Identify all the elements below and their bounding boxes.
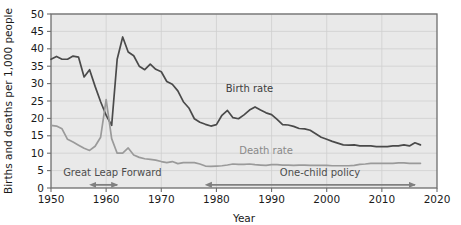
y-tick-label: 10	[31, 147, 44, 159]
y-tick-label: 15	[31, 129, 44, 141]
annotation-label-great-leap-forward: Great Leap Forward	[63, 167, 161, 178]
annotation-label-one-child-policy: One-child policy	[280, 167, 360, 178]
x-tick-label: 1980	[203, 193, 230, 205]
y-tick-label: 0	[37, 182, 44, 194]
x-tick-label: 1960	[93, 193, 120, 205]
y-tick-label: 5	[37, 164, 44, 176]
x-tick-label: 1990	[258, 193, 285, 205]
x-tick-label: 2000	[313, 193, 340, 205]
y-tick-label: 35	[31, 60, 44, 72]
y-tick-label: 50	[31, 8, 44, 20]
y-tick-label: 45	[31, 25, 44, 37]
y-tick-label: 20	[31, 112, 44, 124]
y-axis-title: Births and deaths per 1,000 people	[2, 8, 14, 194]
y-tick-label: 25	[31, 95, 44, 107]
y-tick-label: 40	[31, 42, 44, 54]
series-label-birth-rate: Birth rate	[226, 83, 274, 94]
births-deaths-line-chart: 05101520253035404550 1950196019701980199…	[0, 0, 461, 225]
chart-container: 05101520253035404550 1950196019701980199…	[0, 0, 461, 225]
x-tick-label: 1950	[38, 193, 65, 205]
x-tick-label: 2010	[368, 193, 395, 205]
x-tick-label: 2020	[424, 193, 451, 205]
x-tick-label: 1970	[148, 193, 175, 205]
series-label-death-rate: Death rate	[239, 145, 293, 156]
x-axis-title: Year	[232, 212, 256, 224]
y-tick-label: 30	[31, 77, 44, 89]
